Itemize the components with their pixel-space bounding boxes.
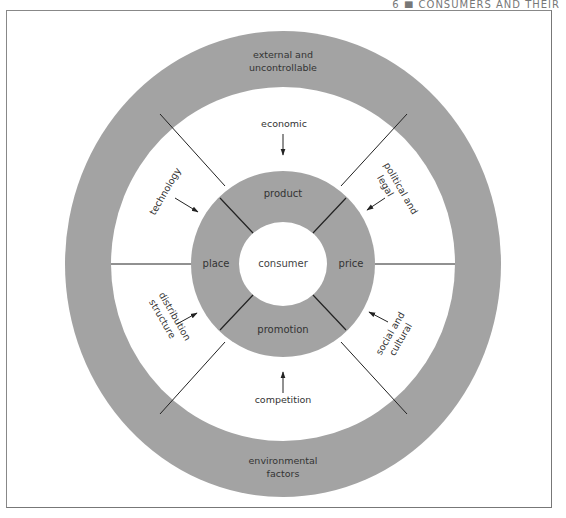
center-label-consumer: consumer: [258, 258, 308, 269]
mix-label-price: price: [339, 258, 364, 269]
environment-diagram: external and uncontrollable environmenta…: [0, 0, 566, 518]
factor-economic: economic: [261, 118, 307, 129]
outer-label-bottom-1: environmental: [249, 455, 318, 466]
mix-label-product: product: [264, 188, 303, 199]
factor-competition: competition: [255, 394, 312, 405]
outer-label-top-2: uncontrollable: [249, 62, 317, 73]
mix-label-place: place: [203, 258, 230, 269]
outer-label-top-1: external and: [253, 49, 313, 60]
mix-label-promotion: promotion: [257, 324, 308, 335]
outer-label-bottom-2: factors: [267, 468, 300, 479]
